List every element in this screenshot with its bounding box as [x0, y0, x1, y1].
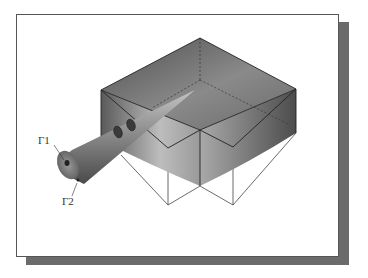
port-gamma2	[77, 179, 80, 182]
label-gamma1: Γ1	[38, 134, 50, 146]
label-gamma2: Γ2	[62, 195, 74, 207]
block	[101, 38, 296, 186]
diagram-canvas: Γ1 Γ2	[0, 0, 368, 278]
port-gamma1	[65, 160, 70, 166]
